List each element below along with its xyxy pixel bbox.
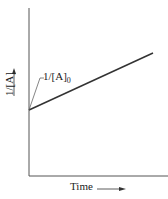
annotation-leader — [29, 78, 44, 110]
chart-canvas — [0, 0, 168, 199]
x-axis-label: Time — [70, 180, 93, 192]
annotation-main: 1/[A] — [43, 70, 67, 82]
annotation-subscript: 0 — [67, 76, 71, 85]
intercept-annotation: 1/[A]0 — [43, 70, 71, 85]
x-arrow-head-icon — [119, 187, 126, 191]
y-axis-label: 1/[A] — [3, 72, 15, 96]
